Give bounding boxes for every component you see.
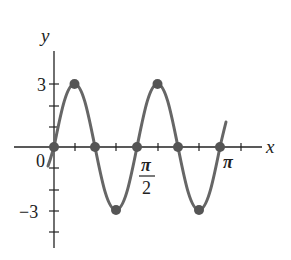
zero-point bbox=[215, 142, 225, 152]
y-axis-label: y bbox=[39, 25, 50, 46]
y-tick-label-3: 3 bbox=[37, 75, 46, 95]
min-point bbox=[194, 205, 204, 215]
zero-point bbox=[173, 142, 183, 152]
zero-point bbox=[49, 142, 59, 152]
x-tick-label-pi-half-numerator: π bbox=[141, 155, 152, 175]
y-tick-label-neg3: −3 bbox=[19, 202, 38, 222]
zero-point bbox=[90, 142, 100, 152]
zero-point bbox=[132, 142, 142, 152]
origin-label: 0 bbox=[36, 151, 45, 171]
max-point bbox=[153, 79, 163, 89]
x-tick-label-pi-half-denominator: 2 bbox=[142, 178, 151, 198]
min-point bbox=[111, 205, 121, 215]
x-axis-label: x bbox=[265, 136, 275, 157]
max-point bbox=[70, 79, 80, 89]
x-tick-label-pi: π bbox=[223, 152, 234, 172]
sine-chart: y x 0 3 −3 π 2 π bbox=[0, 0, 291, 260]
